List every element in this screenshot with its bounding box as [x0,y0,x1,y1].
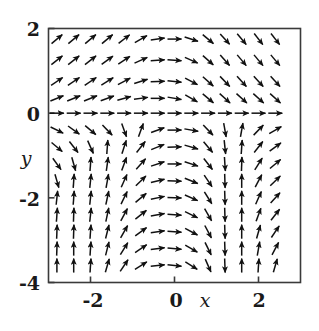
vector-arrow [68,56,79,65]
vector-arrow [101,78,113,85]
vector-arrow [102,56,113,64]
vector-arrow [68,78,80,86]
vector-arrow [73,191,74,205]
vector-arrow [151,60,165,61]
vector-arrow [237,34,246,45]
vector-arrow [270,94,280,103]
vector-arrow [203,35,214,44]
vector-arrow [184,129,198,131]
vector-arrow [271,55,280,66]
vector-arrow [255,175,262,187]
vector-arrow [272,242,279,254]
vector-arrow [151,162,164,166]
vector-arrow [168,214,182,215]
vector-arrow [204,158,213,169]
vector-arrow [135,228,146,236]
x-tick-label-0: 0 [169,289,182,311]
vector-arrow [139,124,144,137]
y-tick-label-minus2: -2 [19,188,40,210]
vector-arrow [68,126,79,134]
y-tick-label-0: 0 [27,103,40,125]
y-tick-label-minus4: -4 [19,272,40,294]
vector-arrow [168,97,182,99]
vector-arrow [51,56,62,65]
vector-arrow [122,124,127,137]
vector-arrow [254,142,263,153]
vector-arrow [102,125,112,135]
vector-arrow [105,259,109,272]
vector-arrow [237,55,246,66]
vector-arrow [224,140,225,154]
vector-arrow-group [50,34,282,273]
vector-arrow [185,178,198,183]
vector-arrow [185,262,197,269]
vector-arrow [68,35,79,44]
vector-arrow [121,192,127,205]
vector-arrow [118,56,130,64]
vector-arrow [253,94,263,103]
vector-arrow [185,212,198,218]
vector-arrow [101,96,114,101]
vector-arrow [120,260,128,272]
vector-arrow [254,125,264,135]
vector-arrow [90,225,91,239]
vector-arrow [151,38,165,40]
vector-arrow [119,35,130,44]
vector-arrow [168,248,182,249]
vector-arrow [85,126,96,135]
vector-arrow [151,265,165,266]
vector-arrow [220,55,229,65]
vector-arrow [151,179,165,182]
vector-arrow [168,231,182,232]
vector-arrow [220,76,230,86]
x-tick-label-2: 2 [252,289,265,311]
vector-arrow [135,262,147,269]
vector-arrow [121,226,128,238]
vector-arrow [51,127,64,133]
vector-arrow [106,157,108,171]
vector-arrow [224,157,225,171]
vector-arrow [90,242,91,256]
vector-arrow [256,191,262,204]
y-axis-label: y [20,147,32,169]
vector-arrow [257,225,261,238]
direction-field-plot: 2 0 -2 -4 y -2 0 2 x [0,0,319,331]
vector-arrow [52,35,63,44]
vector-arrow [117,96,130,100]
vector-arrow [185,228,197,235]
vector-arrow [185,78,197,85]
vector-arrow [241,140,242,154]
vector-arrow [224,123,226,137]
vector-arrow [134,79,147,83]
vector-arrow [203,56,213,65]
vector-arrow [271,34,280,45]
vector-arrow [88,141,94,154]
vector-arrow [90,208,91,222]
vector-arrow [90,259,91,273]
vector-arrow [220,94,230,103]
vector-arrow [270,176,280,186]
vector-arrow [90,157,91,171]
vector-arrow [204,175,212,187]
vector-arrow [151,214,165,216]
vector-arrow [255,158,262,170]
vector-arrow [106,191,109,205]
vector-arrow [151,248,165,250]
vector-arrow [106,174,108,188]
vector-arrow [53,158,61,169]
vector-arrow [118,78,130,85]
vector-arrow [136,159,145,169]
vector-arrow [270,143,281,151]
vector-arrow [185,145,198,149]
vector-arrow [85,78,97,86]
vector-arrow [254,55,263,66]
vector-arrow [257,242,259,256]
x-axis-label: x [200,289,211,311]
vector-arrow [185,95,197,102]
vector-arrow [56,191,57,205]
vector-arrow [107,140,108,154]
vector-arrow [204,142,213,153]
vector-arrow [205,226,212,238]
vector-arrow [136,193,147,202]
vector-arrow [90,191,91,205]
